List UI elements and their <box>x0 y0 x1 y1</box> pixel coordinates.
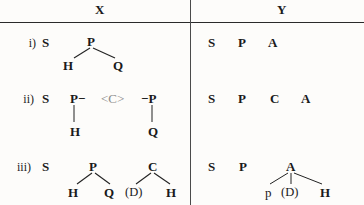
row-label-ii: ii) <box>4 92 34 107</box>
edge-row-iii-p-h <box>77 173 92 184</box>
column-header-y: Y <box>277 2 287 18</box>
row-iii-x-node-s: S <box>42 160 49 173</box>
row-ii-y-node-s: S <box>208 92 215 105</box>
row-ii-y-node-p: P <box>238 92 246 105</box>
row-ii-y-node-c: C <box>270 92 279 105</box>
column-header-x: X <box>95 2 105 18</box>
row-i-y-node-s: S <box>208 36 215 49</box>
row-iii-y-node-s: S <box>208 160 215 173</box>
edge-row-iii-c-d <box>136 173 151 184</box>
edge-row-iii-p-q <box>95 173 110 184</box>
row-ii-x-group-p-left: P− <box>70 92 85 105</box>
row-iii-y-leaf-p: p <box>265 186 272 199</box>
row-i-x-node-q: Q <box>113 59 123 72</box>
row-iii-y-node-a: A <box>286 160 295 173</box>
row-ii-y-node-a: A <box>301 92 310 105</box>
row-label-i: i) <box>6 36 36 51</box>
row-iii-x-leaf-d: (D) <box>125 186 142 199</box>
row-i-y-node-p: P <box>238 36 246 49</box>
edge-row-iii-c-h <box>154 173 170 184</box>
edge-row-iii-a-h <box>294 173 322 184</box>
edge-row-i-p-h <box>74 48 90 58</box>
row-iii-y-node-p: P <box>239 160 247 173</box>
row-iii-x-leaf-h2: H <box>166 186 176 199</box>
edge-row-i-p-q <box>93 48 115 58</box>
row-i-x-node-s: S <box>42 36 49 49</box>
row-i-y-node-a: A <box>268 36 277 49</box>
header-horizontal-rule <box>0 22 364 23</box>
column-vertical-divider <box>190 0 191 205</box>
row-ii-x-node-h: H <box>70 125 80 138</box>
row-iii-x-leaf-h1: H <box>68 186 78 199</box>
row-iii-y-leaf-d: (D) <box>281 186 298 199</box>
comparison-figure: X Y i) S P H Q S P A ii) S P− <C> −P H Q… <box>0 0 364 205</box>
row-label-iii: iii) <box>1 160 31 175</box>
row-ii-x-node-s: S <box>42 92 49 105</box>
row-ii-x-group-p-right: −P <box>141 92 156 105</box>
row-iii-x-node-p: P <box>89 160 97 173</box>
row-iii-x-node-c: C <box>148 160 157 173</box>
row-i-x-node-p: P <box>87 35 95 48</box>
row-i-x-node-h: H <box>63 59 73 72</box>
row-iii-x-leaf-q: Q <box>104 186 114 199</box>
row-ii-x-group-c-center: <C> <box>101 92 124 105</box>
row-ii-x-node-q: Q <box>148 125 158 138</box>
row-iii-y-leaf-h: H <box>320 186 330 199</box>
edge-row-iii-a-p <box>270 173 288 184</box>
